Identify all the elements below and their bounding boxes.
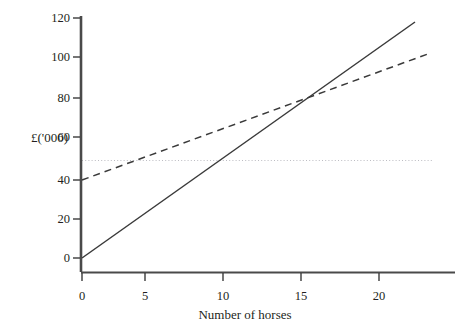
y-tick-label-120: 120 — [28, 12, 70, 25]
y-tick-label-100: 100 — [28, 51, 70, 64]
y-axis-title: £('000) — [8, 131, 68, 144]
x-tick-label-20: 20 — [373, 290, 386, 303]
chart-figure: 120 100 80 60 40 20 0 £('000) 0 5 10 15 … — [0, 0, 460, 330]
solid-series-line — [82, 22, 415, 258]
y-tick-label-20: 20 — [28, 213, 70, 226]
x-axis-title: Number of horses — [198, 308, 291, 321]
y-axis-ticks — [73, 18, 80, 258]
x-tick-label-15: 15 — [295, 290, 308, 303]
x-tick-label-10: 10 — [217, 290, 230, 303]
x-axis-ticks — [82, 273, 379, 281]
x-tick-label-5: 5 — [142, 290, 148, 303]
y-tick-label-80: 80 — [28, 92, 70, 105]
y-tick-label-0: 0 — [28, 252, 70, 265]
x-tick-label-0: 0 — [79, 290, 85, 303]
y-tick-label-40: 40 — [28, 174, 70, 187]
